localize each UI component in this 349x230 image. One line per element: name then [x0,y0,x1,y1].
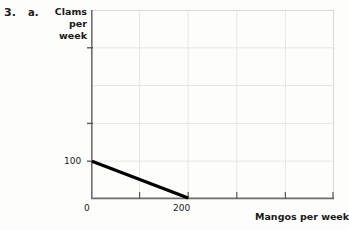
vertical-gridlines [140,10,286,199]
plot-area [91,10,334,199]
x-tick-label-0: 0 [84,203,90,213]
question-number: 3. [4,6,16,19]
horizontal-gridlines [91,48,334,161]
question-part-letter: a. [28,7,39,18]
chart-svg [91,10,334,199]
plot-border [91,10,334,199]
y-axis-title: Clams per week [38,6,87,42]
y-axis-title-line-2: week [38,30,87,42]
x-tick-label-200: 200 [173,203,190,213]
x-axis-title: Mangos per week [255,211,349,222]
y-tick-label-100: 100 [64,156,81,166]
y-axis-title-line-1: Clams per [38,6,87,30]
